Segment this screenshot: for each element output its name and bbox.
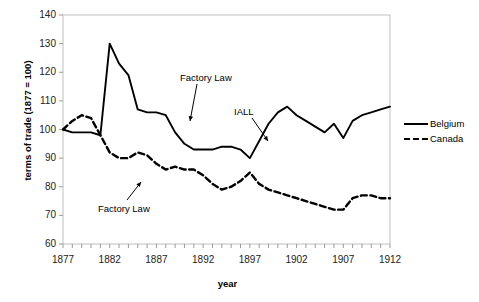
legend-key-dashed-line-icon <box>404 138 428 140</box>
series-line-canada <box>63 115 390 209</box>
arrow-factory-law-belgium <box>189 84 197 121</box>
arrow-factory-law-canada <box>127 182 141 200</box>
plot-area <box>0 0 479 302</box>
annotation-factory-law-canada: Factory Law <box>98 203 150 214</box>
chart-legend: Belgium Canada <box>404 116 464 146</box>
chart-figure: terms of trade (1877 = 100) year 1401301… <box>0 0 479 302</box>
annotation-factory-law-belgium: Factory Law <box>180 72 232 83</box>
legend-key-solid-line-icon <box>404 123 428 125</box>
series-line-belgium <box>63 44 390 159</box>
legend-item-belgium: Belgium <box>404 116 464 131</box>
legend-label-canada: Canada <box>430 133 463 144</box>
legend-label-belgium: Belgium <box>430 118 464 129</box>
legend-item-canada: Canada <box>404 131 464 146</box>
annotation-iall-belgium: IALL <box>234 106 254 117</box>
